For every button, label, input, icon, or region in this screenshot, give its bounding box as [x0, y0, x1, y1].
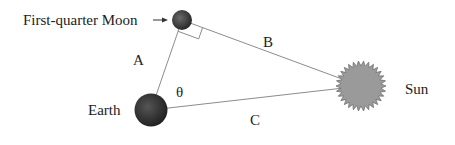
angle-theta-label: θ [176, 84, 183, 100]
side-a-label: A [133, 52, 144, 68]
earth-icon [135, 94, 168, 127]
side-b-line [182, 20, 361, 86]
earth-label: Earth [88, 102, 121, 118]
side-c-label: C [250, 112, 260, 128]
sun-label: Sun [405, 81, 429, 97]
moon-earth-sun-diagram: First-quarter Moon Earth Sun A B C θ [0, 0, 455, 145]
side-b-label: B [263, 34, 273, 50]
sun-icon [336, 61, 386, 111]
moon-pointer-arrowhead [162, 18, 168, 23]
moon-icon [172, 10, 192, 30]
moon-label: First-quarter Moon [23, 12, 138, 28]
